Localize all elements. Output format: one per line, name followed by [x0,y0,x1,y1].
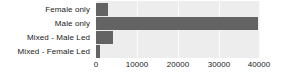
bar-mixed-female-led [96,45,100,58]
bar-female-only [96,3,108,16]
plot-area [96,1,260,58]
x-tick-label-40000: 40000 [248,60,271,70]
x-tick-label-30000: 30000 [208,60,231,70]
y-tick-label-female-only: Female only [45,5,90,14]
bar-mixed-male-led [96,31,113,44]
y-axis: Female only Male only Mixed - Male Led M… [0,0,93,58]
y-tick-label-mixed-female-led: Mixed - Female Led [18,47,91,56]
x-tick-label-10000: 10000 [126,60,149,70]
y-tick-label-mixed-male-led: Mixed - Male Led [27,33,90,42]
bar-chart: Female only Male only Mixed - Male Led M… [0,0,283,77]
gridline-40000 [259,1,260,58]
x-tick-label-0: 0 [94,60,99,70]
y-tick-label-male-only: Male only [55,19,90,28]
x-axis: 0 10000 20000 30000 40000 [0,60,283,74]
bar-male-only [96,17,258,30]
x-tick-label-20000: 20000 [167,60,190,70]
